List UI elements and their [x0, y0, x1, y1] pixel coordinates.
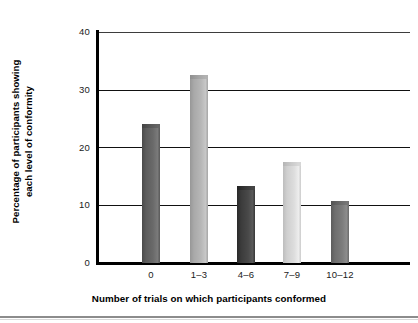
- bar-top-cap: [331, 201, 349, 205]
- bars-container: [0, 0, 418, 263]
- bar-10-12: [331, 201, 349, 263]
- bar-4-6: [237, 186, 255, 263]
- x-tick-label-4-6: 4–6: [221, 269, 271, 280]
- bar-7-9: [283, 162, 301, 263]
- bar-top-cap: [283, 162, 301, 166]
- page-bottom-rule-secondary: [0, 319, 418, 320]
- bar-top-cap: [237, 186, 255, 190]
- bar-0: [142, 124, 160, 263]
- bar-chart-figure: Percentage of participants showing each …: [0, 0, 418, 323]
- x-tick-label-0: 0: [126, 269, 176, 280]
- bar-top-cap: [142, 124, 160, 128]
- page-bottom-rule: [0, 316, 418, 318]
- bar-1-3: [190, 75, 208, 263]
- bar-top-cap: [190, 75, 208, 79]
- x-tick-label-1-3: 1–3: [174, 269, 224, 280]
- x-tick-label-7-9: 7–9: [267, 269, 317, 280]
- x-axis-title: Number of trials on which participants c…: [0, 293, 418, 304]
- x-tick-label-10-12: 10–12: [315, 269, 365, 280]
